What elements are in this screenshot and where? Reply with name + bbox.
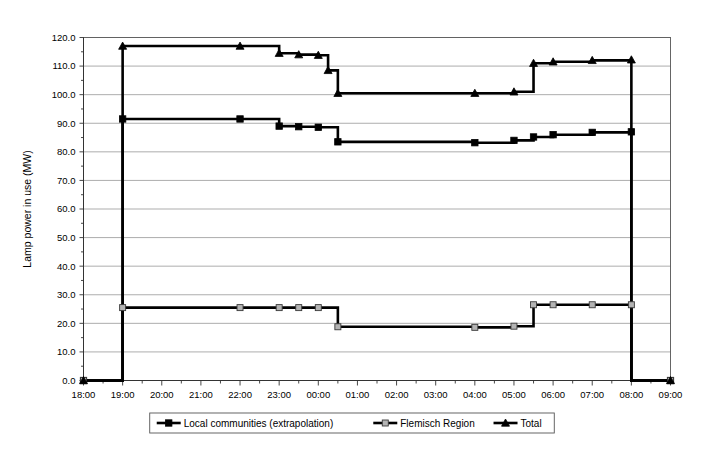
marker-1-13 (628, 129, 634, 135)
x-tick-label-03:00: 03:00 (424, 389, 448, 400)
y-tick-label-50.0: 50.0 (57, 232, 76, 243)
chart-container: 0.010.020.030.040.050.060.070.080.090.01… (0, 0, 704, 453)
x-tick-label-19:00: 19:00 (111, 389, 135, 400)
x-tick-label-09:00: 09:00 (659, 389, 683, 400)
marker-2-5 (296, 305, 302, 311)
y-tick-label-100.0: 100.0 (52, 89, 76, 100)
y-tick-label-70.0: 70.0 (57, 175, 76, 186)
y-tick-label-20.0: 20.0 (57, 318, 76, 329)
marker-1-11 (550, 131, 556, 137)
y-tick-label-10.0: 10.0 (57, 346, 76, 357)
x-tick-label-02:00: 02:00 (385, 389, 409, 400)
marker-1-3 (237, 116, 243, 122)
legend-marker-1 (166, 420, 172, 426)
chart-legend: Local communities (extrapolation)Flemisc… (150, 413, 555, 433)
marker-2-4 (276, 305, 282, 311)
x-tick-label-08:00: 08:00 (619, 389, 643, 400)
marker-1-8 (472, 139, 478, 145)
x-tick-label-18:00: 18:00 (72, 389, 96, 400)
x-tick-label-04:00: 04:00 (463, 389, 487, 400)
marker-2-3 (237, 305, 243, 311)
marker-1-5 (296, 123, 302, 129)
y-tick-label-30.0: 30.0 (57, 289, 76, 300)
x-tick-label-22:00: 22:00 (228, 389, 252, 400)
marker-2-12 (589, 302, 595, 308)
legend-label-2: Flemisch Region (400, 418, 474, 429)
marker-1-7 (335, 139, 341, 145)
y-axis-title: Lamp power in use (MW) (21, 150, 33, 267)
legend-label-3: Total (521, 418, 542, 429)
y-tick-label-120.0: 120.0 (52, 32, 76, 43)
marker-1-9 (511, 137, 517, 143)
marker-1-10 (530, 134, 536, 140)
x-tick-label-23:00: 23:00 (267, 389, 291, 400)
x-tick-label-05:00: 05:00 (502, 389, 526, 400)
y-tick-label-60.0: 60.0 (57, 203, 76, 214)
legend-label-1: Local communities (extrapolation) (184, 418, 334, 429)
y-tick-label-110.0: 110.0 (52, 60, 75, 71)
y-tick-label-0.0: 0.0 (62, 375, 75, 386)
marker-2-10 (531, 302, 537, 308)
marker-2-2 (120, 305, 126, 311)
lamp-power-line-chart: 0.010.020.030.040.050.060.070.080.090.01… (0, 0, 704, 453)
x-tick-label-21:00: 21:00 (189, 389, 213, 400)
marker-1-12 (589, 129, 595, 135)
marker-1-6 (315, 124, 321, 130)
marker-2-9 (511, 323, 517, 329)
marker-2-7 (335, 324, 341, 330)
x-tick-label-01:00: 01:00 (346, 389, 370, 400)
legend-marker-2 (382, 420, 388, 426)
marker-1-2 (119, 116, 125, 122)
y-tick-label-40.0: 40.0 (57, 261, 76, 272)
x-tick-label-00:00: 00:00 (306, 389, 330, 400)
legend-item-1[interactable]: Local communities (extrapolation) (157, 418, 334, 429)
marker-1-4 (276, 123, 282, 129)
marker-2-8 (472, 324, 478, 330)
marker-2-13 (628, 302, 634, 308)
x-tick-label-20:00: 20:00 (150, 389, 174, 400)
chart-background (0, 0, 704, 453)
x-tick-label-06:00: 06:00 (541, 389, 565, 400)
x-tick-label-07:00: 07:00 (580, 389, 604, 400)
marker-2-6 (315, 305, 321, 311)
y-tick-label-80.0: 80.0 (57, 146, 76, 157)
y-tick-label-90.0: 90.0 (57, 118, 76, 129)
marker-2-11 (550, 302, 556, 308)
